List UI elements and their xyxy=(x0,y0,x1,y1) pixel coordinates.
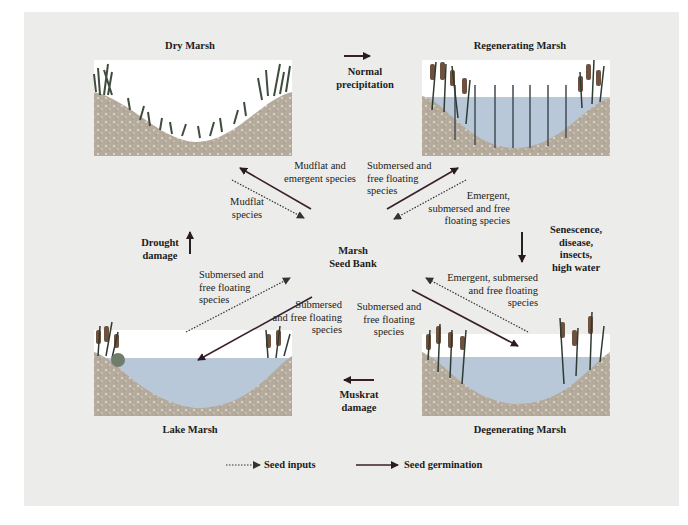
muskrat-line1: Muskrat xyxy=(324,389,394,402)
drought-line1: Drought xyxy=(132,237,188,250)
np-line2: precipitation xyxy=(320,79,410,92)
regenerating-marsh-title: Regenerating Marsh xyxy=(455,40,585,53)
normal-precipitation-label: Normal precipitation xyxy=(320,66,410,91)
np-line1: Normal xyxy=(320,66,410,79)
degenerating-seed-input-label: Emergent, submersed and free floating sp… xyxy=(438,272,538,310)
ri-line3: floating species xyxy=(418,215,510,228)
degenerating-marsh-title: Degenerating Marsh xyxy=(450,424,590,437)
ri-line2: submersed and free xyxy=(418,203,510,216)
dry-germination-label: Mudflat and emergent species xyxy=(272,160,368,185)
muskrat-damage-label: Muskrat damage xyxy=(324,389,394,414)
dgi-line2: and free floating xyxy=(438,285,538,298)
sen-line4: high water xyxy=(536,262,616,275)
ri-line1: Emergent, xyxy=(418,190,510,203)
lake-germination-label: Submersed and free floating species xyxy=(262,299,342,337)
regenerating-marsh-illustration xyxy=(422,60,610,156)
seed-bank-line2: Seed Bank xyxy=(318,258,388,271)
lg-line2: and free floating xyxy=(262,312,342,325)
degenerating-germination-label: Submersed and free floating species xyxy=(353,301,425,339)
regenerating-seed-input-label: Emergent, submersed and free floating sp… xyxy=(418,190,510,228)
dg-line2: emergent species xyxy=(272,173,368,186)
dgi-line3: species xyxy=(438,297,538,310)
li-line2: free floating xyxy=(199,282,289,295)
rg-line2: free floating xyxy=(367,173,457,186)
rg-line1: Submersed and xyxy=(367,160,457,173)
di-line2: species xyxy=(222,209,272,222)
dry-seed-input-label: Mudflat species xyxy=(222,196,272,221)
drought-damage-label: Drought damage xyxy=(132,237,188,262)
dg-line1: Mudflat and xyxy=(272,160,368,173)
senescence-label: Senescence, disease, insects, high water xyxy=(536,224,616,274)
dgg-line1: Submersed and xyxy=(353,301,425,314)
legend-seed-inputs: Seed inputs xyxy=(264,459,316,472)
lake-marsh-title: Lake Marsh xyxy=(130,424,250,437)
legend-seed-germination: Seed germination xyxy=(404,459,482,472)
dgg-line3: species xyxy=(353,326,425,339)
sen-line2: disease, xyxy=(536,237,616,250)
degenerating-marsh-illustration xyxy=(422,312,610,416)
drought-line2: damage xyxy=(132,250,188,263)
seed-bank-line1: Marsh xyxy=(318,245,388,258)
lg-line3: species xyxy=(262,324,342,337)
sen-line1: Senescence, xyxy=(536,224,616,237)
muskrat-line2: damage xyxy=(324,402,394,415)
di-line1: Mudflat xyxy=(222,196,272,209)
dry-marsh-illustration xyxy=(94,60,292,156)
dgi-line1: Emergent, submersed xyxy=(438,272,538,285)
li-line1: Submersed and xyxy=(199,269,289,282)
dgg-line2: free floating xyxy=(353,314,425,327)
seed-bank-label: Marsh Seed Bank xyxy=(318,245,388,270)
dry-marsh-title: Dry Marsh xyxy=(130,40,250,53)
sen-line3: insects, xyxy=(536,249,616,262)
lg-line1: Submersed xyxy=(262,299,342,312)
